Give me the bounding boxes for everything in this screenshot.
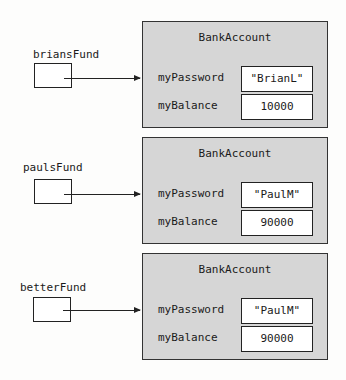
- object-class-title: BankAccount: [143, 31, 327, 44]
- reference-box-paulsFund: [34, 179, 72, 204]
- field-value-password: "PaulM": [241, 298, 313, 324]
- variable-label-briansFund: briansFund: [33, 48, 99, 61]
- reference-arrow: [64, 194, 140, 195]
- object-box: BankAccount myPassword "PaulM" myBalance…: [142, 137, 328, 244]
- reference-arrow: [64, 78, 140, 79]
- field-value-balance: 90000: [241, 326, 313, 352]
- reference-arrow: [63, 310, 140, 311]
- field-value-balance: 10000: [241, 94, 313, 120]
- field-name-balance: myBalance: [158, 215, 218, 228]
- field-value-password: "BrianL": [241, 66, 313, 92]
- field-name-password: myPassword: [158, 303, 224, 316]
- field-name-password: myPassword: [158, 187, 224, 200]
- field-value-password: "PaulM": [241, 182, 313, 208]
- field-name-password: myPassword: [158, 71, 224, 84]
- field-value-balance: 90000: [241, 210, 313, 236]
- field-name-balance: myBalance: [158, 331, 218, 344]
- variable-label-paulsFund: paulsFund: [23, 161, 83, 174]
- reference-box-briansFund: [34, 63, 72, 88]
- variable-label-betterFund: betterFund: [20, 281, 86, 294]
- object-class-title: BankAccount: [143, 147, 327, 160]
- object-box: BankAccount myPassword "BrianL" myBalanc…: [142, 21, 328, 128]
- object-box: BankAccount myPassword "PaulM" myBalance…: [142, 253, 328, 360]
- object-class-title: BankAccount: [143, 263, 327, 276]
- field-name-balance: myBalance: [158, 99, 218, 112]
